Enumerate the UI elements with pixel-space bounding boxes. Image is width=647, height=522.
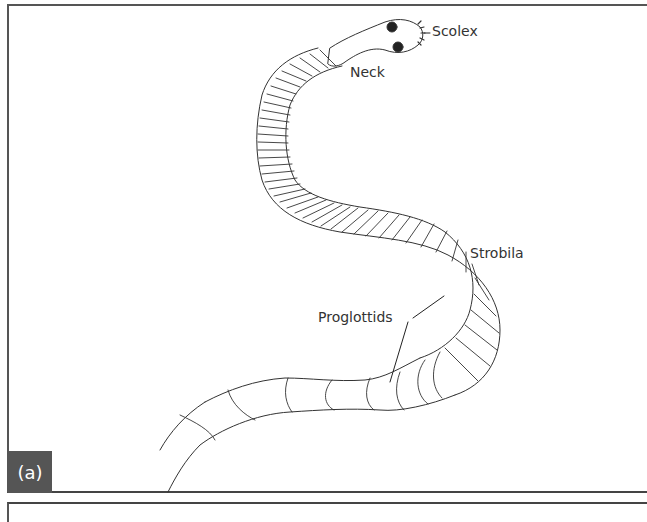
label-proglottids: Proglottids bbox=[318, 309, 393, 325]
body-outer-edge bbox=[257, 48, 500, 395]
sucker-upper bbox=[387, 22, 397, 32]
panel-label: (a) bbox=[8, 451, 52, 493]
scolex-outline bbox=[328, 20, 423, 67]
label-scolex: Scolex bbox=[432, 23, 478, 39]
tail-outer-edge bbox=[168, 395, 455, 492]
label-strobila: Strobila bbox=[470, 245, 524, 261]
proglottid-segments bbox=[180, 352, 442, 440]
segments bbox=[258, 50, 499, 381]
tail-inner-edge bbox=[160, 358, 420, 450]
proglottids-leader-1 bbox=[413, 296, 444, 318]
proglottids-leader-2 bbox=[390, 322, 408, 382]
sucker-lower bbox=[393, 42, 403, 52]
label-neck: Neck bbox=[350, 64, 386, 80]
